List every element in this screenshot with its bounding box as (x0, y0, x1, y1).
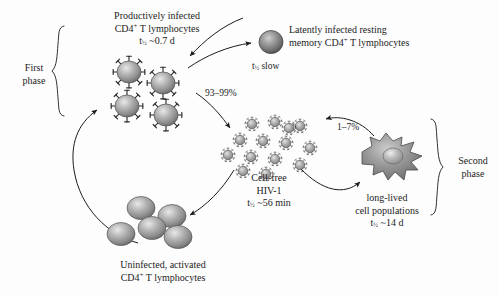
latently-infected-label: Latently infected resting memory CD4+ T … (289, 24, 409, 49)
infected-cell (111, 90, 143, 122)
latently-infected-cell (259, 31, 283, 54)
virion (245, 117, 259, 131)
uninfected-cell (107, 223, 135, 246)
infected-cell (113, 56, 145, 88)
virion (282, 121, 296, 135)
uninfected-cell (164, 226, 192, 249)
latently-infected-label-line2: memory CD4+ T lymphocytes (289, 37, 409, 50)
cell-free-virus-halflife: t½ ~56 min (217, 197, 321, 210)
diagram-vector-layer (0, 0, 498, 295)
long-lived-halflife: t½ ~14 d (331, 217, 443, 230)
virion (233, 133, 247, 147)
latently-infected-halflife: t½ slow (252, 61, 279, 73)
productively-infected-label: Productively infected CD4+ T lymphocytes… (83, 10, 231, 48)
productively-infected-halflife: t½ ~0.7 d (83, 35, 231, 48)
long-lived-label: long-lived cell populations t½ ~14 d (331, 192, 443, 230)
virion (268, 115, 282, 129)
hiv-dynamics-figure: First phase Second phase Productively in… (0, 0, 498, 295)
virion (268, 152, 282, 166)
infected-cell (147, 67, 179, 99)
virion (221, 148, 235, 162)
uninfected-label-line2: CD4+ T lymphocytes (92, 272, 234, 285)
cell-free-virus-label: Cell-free HIV-1 t½ ~56 min (217, 172, 321, 210)
virion (244, 150, 258, 164)
productive-share-label: 93–99% (205, 88, 237, 100)
arrow-uninfected-to-infected (73, 110, 138, 243)
virion (279, 136, 293, 150)
longlived-share-label: 1–7% (337, 122, 359, 134)
uninfected-cell-cluster (107, 197, 192, 249)
first-phase-label: First phase (12, 62, 56, 87)
virion (256, 134, 270, 148)
long-lived-macrophage-cell (362, 133, 422, 180)
uninfected-cell (127, 197, 155, 220)
productively-infected-cell-cluster (111, 56, 182, 131)
infected-cell (150, 99, 182, 131)
virion (303, 141, 317, 155)
second-phase-label: Second phase (449, 155, 497, 180)
productively-infected-label-line2: CD4+ T lymphocytes (83, 23, 231, 36)
uninfected-cell (138, 217, 166, 240)
uninfected-label: Uninfected, activated CD4+ T lymphocytes (92, 259, 234, 284)
virion (293, 158, 307, 172)
